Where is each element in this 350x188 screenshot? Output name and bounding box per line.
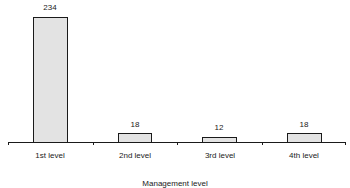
category-label-2nd-level: 2nd level: [93, 151, 177, 161]
x-axis-tick: [262, 142, 263, 145]
x-axis-tick: [93, 142, 94, 145]
value-label-1st-level: 234: [30, 3, 70, 13]
x-axis-tick: [177, 142, 178, 145]
category-label-4th-level: 4th level: [262, 151, 346, 161]
value-label-3rd-level: 12: [199, 123, 239, 133]
x-axis-title: Management level: [0, 179, 350, 188]
category-label-1st-level: 1st level: [8, 151, 92, 161]
category-label-3rd-level: 3rd level: [178, 151, 262, 161]
value-label-2nd-level: 18: [115, 120, 155, 130]
bar-1st-level: [33, 17, 68, 143]
x-axis-tick: [345, 142, 346, 145]
value-label-4th-level: 18: [284, 120, 324, 130]
x-axis-tick: [8, 142, 9, 145]
bar-chart: 234 18 12 18 1st level 2nd level 3rd lev…: [0, 0, 350, 188]
